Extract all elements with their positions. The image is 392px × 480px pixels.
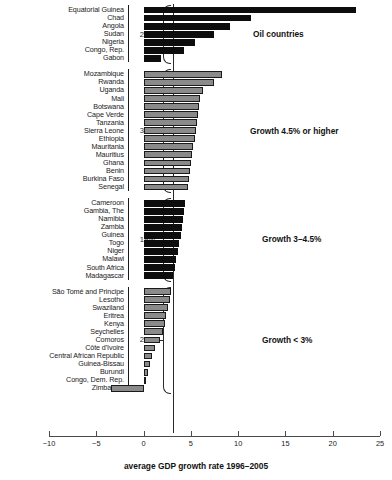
- bar: [144, 200, 186, 207]
- bar: [144, 296, 170, 303]
- bar: [144, 256, 176, 263]
- x-axis-tick: [191, 431, 192, 436]
- x-axis-tick-label: 20: [320, 439, 346, 448]
- bar: [144, 7, 357, 14]
- group-note: Growth 3–4.5%: [262, 234, 321, 244]
- x-axis-tick-label: 10: [225, 439, 251, 448]
- x-axis-tick: [238, 431, 239, 436]
- bar: [144, 168, 190, 175]
- group-note: Growth < 3%: [262, 335, 312, 345]
- bar: [144, 328, 164, 335]
- bar: [144, 288, 171, 295]
- bar: [144, 377, 147, 384]
- bar: [144, 71, 222, 78]
- bar: [144, 39, 195, 46]
- bar: [144, 47, 185, 54]
- bar: [144, 216, 184, 223]
- x-axis-tick-label: 5: [178, 439, 204, 448]
- group-note: Oil countries: [253, 29, 304, 39]
- gdp-growth-chart: Equatorial GuineaChadAngolaSudanNigeriaC…: [0, 0, 392, 480]
- x-axis-tick: [333, 431, 334, 436]
- bar: [144, 320, 166, 327]
- x-axis-tick-label: 15: [272, 439, 298, 448]
- bar: [144, 345, 155, 352]
- bar: [144, 361, 151, 368]
- bar: [144, 232, 182, 239]
- bar: [144, 119, 197, 126]
- x-axis-line: [49, 436, 380, 437]
- x-axis-tick: [49, 431, 50, 436]
- bar: [144, 224, 183, 231]
- bar: [144, 184, 188, 191]
- x-axis-tick-label: −5: [83, 439, 109, 448]
- bar: [144, 208, 185, 215]
- bar: [144, 23, 230, 30]
- bar: [144, 272, 173, 279]
- bar: [144, 304, 169, 311]
- x-axis-title: average GDP growth rate 1996–2005: [0, 461, 392, 471]
- bar: [144, 353, 153, 360]
- bar: [144, 87, 204, 94]
- x-axis-tick-label: 0: [131, 439, 157, 448]
- group-note: Growth 4.5% or higher: [250, 126, 339, 136]
- x-axis-tick-label: −10: [36, 439, 62, 448]
- bar: [144, 31, 214, 38]
- plot-area: [0, 0, 392, 433]
- bar: [144, 79, 215, 86]
- bar: [144, 160, 191, 167]
- bar: [144, 95, 201, 102]
- bar: [111, 385, 143, 392]
- bar: [144, 143, 193, 150]
- bar: [144, 264, 175, 271]
- x-axis-tick: [380, 431, 381, 436]
- x-axis-tick-label: 25: [367, 439, 392, 448]
- bar: [144, 369, 149, 376]
- x-axis-tick: [144, 431, 145, 436]
- bar: [144, 240, 180, 247]
- x-axis-tick: [285, 431, 286, 436]
- bar: [144, 111, 199, 118]
- bar: [144, 248, 178, 255]
- bar: [144, 127, 196, 134]
- x-axis-tick: [96, 431, 97, 436]
- bar: [144, 151, 192, 158]
- bar: [144, 135, 195, 142]
- bar: [144, 15, 252, 22]
- bar: [144, 337, 160, 344]
- bar: [144, 55, 161, 62]
- bar: [144, 103, 200, 110]
- bar: [144, 176, 189, 183]
- bar: [144, 312, 167, 319]
